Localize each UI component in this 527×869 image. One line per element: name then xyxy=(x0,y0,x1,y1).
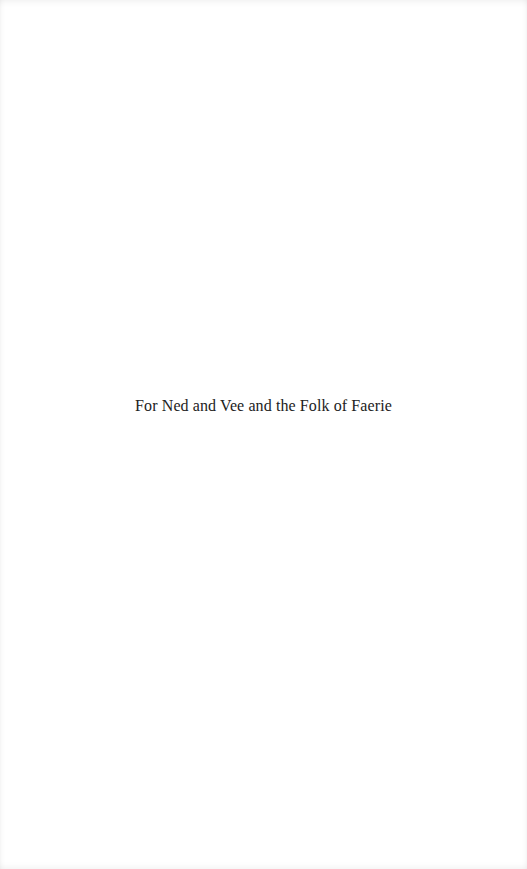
book-page: For Ned and Vee and the Folk of Faerie xyxy=(0,0,527,869)
dedication-text: For Ned and Vee and the Folk of Faerie xyxy=(0,396,527,416)
